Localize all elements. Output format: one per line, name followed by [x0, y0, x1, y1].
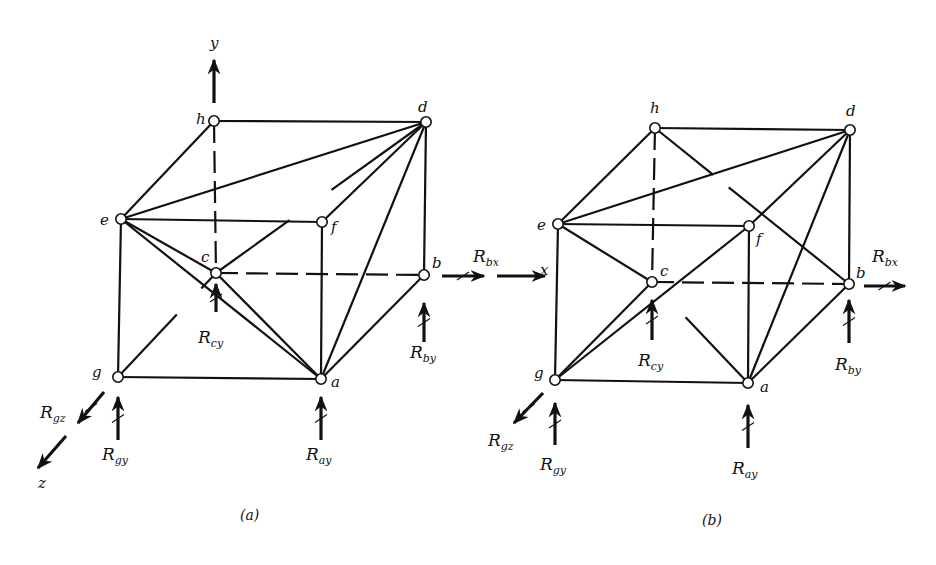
- joint-label-c: c: [660, 262, 669, 280]
- member-df: [322, 122, 426, 222]
- member-hd: [655, 128, 850, 130]
- joint-d: [845, 125, 855, 135]
- joint-g: [550, 375, 560, 385]
- joint-d: [421, 117, 431, 127]
- force-label: Rby: [834, 354, 862, 377]
- panel-caption: (b): [702, 512, 722, 528]
- joint-h: [650, 123, 660, 133]
- truss-figure: hdefcbgaRcyRbyRgyRayRgzyz(a) hdefcbgaRcy…: [0, 0, 936, 565]
- joint-e: [553, 219, 563, 229]
- member-ca: [216, 273, 321, 379]
- hidden-member-hc: [652, 128, 655, 282]
- force-label: Ray: [731, 458, 758, 481]
- joint-label-f: f: [330, 218, 339, 236]
- joint-label-a: a: [331, 373, 340, 391]
- joint-h: [209, 116, 219, 126]
- member-cd: [216, 220, 290, 273]
- member-da: [748, 130, 850, 383]
- force-label: Ray: [305, 444, 332, 467]
- joint-b: [844, 279, 854, 289]
- member-he: [558, 128, 655, 224]
- axis-label-z: z: [37, 474, 46, 492]
- panel-a: hdefcbgaRcyRbyRgyRayRgzyz(a): [37, 34, 484, 523]
- panel-caption: (a): [240, 507, 259, 523]
- joint-e: [116, 214, 126, 224]
- joint-label-b: b: [432, 254, 442, 272]
- force-label: Rcy: [197, 327, 224, 350]
- member-ea: [121, 219, 321, 379]
- joint-label-d: d: [418, 98, 428, 116]
- force-label: Rgz: [39, 402, 66, 425]
- joint-label-e: e: [100, 211, 109, 229]
- joint-label-c: c: [201, 248, 210, 266]
- member-hd: [214, 121, 426, 122]
- joint-label-e: e: [537, 216, 546, 234]
- axis-z-arrow: [38, 436, 66, 468]
- force-label: Rgz: [487, 430, 514, 453]
- joint-label-b: b: [856, 264, 866, 282]
- hidden-member-cb: [216, 273, 424, 275]
- member-db: [424, 122, 426, 275]
- axis-label-x: x: [540, 261, 549, 279]
- joint-a: [743, 378, 753, 388]
- member-fa: [321, 222, 322, 379]
- member-ab: [748, 284, 849, 383]
- joint-label-f: f: [755, 230, 764, 248]
- joint-f: [744, 221, 754, 231]
- joint-label-h: h: [196, 110, 206, 128]
- joint-label-g: g: [534, 364, 544, 382]
- hidden-member-hc: [214, 121, 216, 273]
- joint-label-d: d: [846, 102, 856, 120]
- member-eg: [555, 224, 558, 380]
- member-gc: [118, 315, 177, 377]
- joint-c: [211, 268, 221, 278]
- strike-tick: [523, 404, 535, 412]
- joint-a: [316, 374, 326, 384]
- joint-label-g: g: [92, 363, 102, 381]
- member-ed: [558, 130, 850, 224]
- joint-c: [647, 277, 657, 287]
- force-label: Rgy: [539, 454, 567, 477]
- joint-label-h: h: [650, 99, 660, 117]
- joint-g: [113, 372, 123, 382]
- force-label: Rbx: [871, 246, 899, 269]
- joint-f: [317, 217, 327, 227]
- force-label: Rby: [409, 342, 437, 365]
- member-df: [749, 130, 850, 226]
- hidden-member-cb: [652, 282, 849, 284]
- force-label: Rgy: [101, 444, 129, 467]
- truss-diagram-svg: hdefcbgaRcyRbyRgyRayRgzyz(a) hdefcbgaRcy…: [0, 0, 936, 565]
- member-db: [849, 130, 850, 284]
- member-ec: [558, 224, 652, 282]
- member-eg: [118, 219, 121, 377]
- member-ef: [121, 219, 322, 222]
- axis-label-y: y: [209, 34, 219, 52]
- strike-tick: [85, 404, 97, 412]
- member-fa: [748, 226, 749, 383]
- member-ab: [321, 275, 424, 379]
- joint-b: [419, 270, 429, 280]
- member-ga: [118, 377, 321, 379]
- member-hb: [729, 187, 849, 284]
- joint-label-a: a: [760, 378, 769, 396]
- force-label: Rbx: [472, 246, 500, 269]
- force-label: Rcy: [637, 350, 664, 373]
- member-ca: [686, 317, 748, 383]
- member-hb: [655, 128, 713, 175]
- panel-b: hdefcbgaRcyRbyRgyRayRgzRbxRbxx(b): [472, 99, 905, 528]
- member-ga: [555, 380, 748, 383]
